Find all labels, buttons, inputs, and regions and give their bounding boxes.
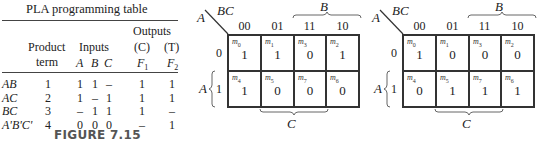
- row-var-label: A: [197, 10, 205, 26]
- kmap-cell: m60: [326, 71, 359, 107]
- minterm-label: m5: [440, 73, 449, 84]
- output-f2: 1: [169, 77, 175, 92]
- minterm-label: m3: [473, 37, 482, 48]
- kmap-cell: m11: [261, 35, 294, 71]
- minterm-label: m2: [330, 37, 339, 48]
- brace-a-label: A: [199, 81, 207, 97]
- cell-value: 0: [437, 47, 468, 63]
- table-title: PLA programming table: [26, 2, 148, 17]
- kmap-cell: m71: [469, 71, 501, 107]
- kmap-grid: m01 m11 m30 m21 m41 m50 m70 m60: [227, 34, 360, 108]
- output-f1-header: F1: [137, 56, 148, 72]
- output-f1: 1: [139, 77, 145, 92]
- kmap-cell: m61: [501, 71, 534, 107]
- kmap-f1: A BC B C A 00 01 11 10 0 1 m01 m11 m30 m…: [195, 0, 365, 148]
- minterm-label: m5: [265, 73, 274, 84]
- col-label: 00: [228, 19, 261, 34]
- output-f1: 1: [139, 104, 145, 119]
- output-f2: –: [169, 104, 175, 119]
- col-label: 01: [436, 19, 469, 34]
- input-a: –: [77, 104, 83, 119]
- output-f2-header: F2: [167, 56, 178, 72]
- minterm-label: m7: [473, 73, 482, 84]
- output-f2: 1: [169, 118, 175, 133]
- cell-value: 0: [404, 83, 435, 99]
- kmap-cell: m70: [294, 71, 326, 107]
- cell-value: 0: [295, 83, 325, 99]
- kmap-f2: A BC B C A 00 01 11 10 0 1 m01 m10 m30 m…: [370, 0, 540, 148]
- input-b: 1: [92, 77, 98, 92]
- term-label: BC: [2, 104, 17, 119]
- minterm-label: m6: [505, 73, 514, 84]
- term-label: AB: [2, 77, 17, 92]
- output-label-c: (C): [134, 40, 150, 55]
- col-label: 00: [403, 19, 436, 34]
- figure-caption: FIGURE 7.15: [54, 128, 141, 142]
- input-c: –: [106, 77, 112, 92]
- brace-a-label: A: [374, 81, 382, 97]
- col-label: 11: [468, 19, 501, 34]
- minterm-label: m4: [407, 73, 416, 84]
- minterm-label: m2: [505, 37, 514, 48]
- kmap-grid: m01 m10 m30 m20 m40 m51 m71 m61: [402, 34, 535, 108]
- minterm-label: m4: [232, 73, 241, 84]
- input-b: 1: [92, 104, 98, 119]
- col-label: 01: [261, 19, 294, 34]
- row-label: 0: [391, 46, 397, 61]
- minterm-label: m6: [330, 73, 339, 84]
- col-label: 10: [326, 19, 359, 34]
- cell-value: 0: [470, 47, 500, 63]
- cell-value: 1: [262, 47, 293, 63]
- term-number: 3: [45, 104, 51, 119]
- input-a-header: A: [76, 56, 83, 71]
- input-a: 1: [77, 77, 83, 92]
- cell-value: 0: [295, 47, 325, 63]
- term-label: A'B'C': [2, 118, 32, 133]
- col-label: 11: [293, 19, 326, 34]
- kmap-cell: m10: [436, 35, 469, 71]
- brace-b-label: B: [320, 0, 328, 15]
- cell-value: 1: [502, 83, 533, 99]
- row-label: 0: [216, 46, 222, 61]
- kmap-cell: m01: [228, 35, 261, 71]
- col-label: 10: [501, 19, 534, 34]
- kmap-cell: m21: [326, 35, 359, 71]
- input-c: 1: [106, 104, 112, 119]
- cell-value: 0: [502, 47, 533, 63]
- kmap-cell: m20: [501, 35, 534, 71]
- brace-c-label: C: [287, 116, 296, 132]
- cell-value: 1: [229, 47, 260, 63]
- cell-value: 1: [404, 47, 435, 63]
- cell-value: 1: [437, 83, 468, 99]
- kmap-cell: m30: [294, 35, 326, 71]
- brace-b-label: B: [495, 0, 503, 15]
- input-b-header: B: [91, 56, 98, 71]
- col-var-label: BC: [392, 3, 409, 19]
- kmap-cell: m51: [436, 71, 469, 107]
- brace-c-label: C: [462, 116, 471, 132]
- term-number: 1: [45, 77, 51, 92]
- outputs-header: Outputs: [133, 24, 171, 39]
- cell-value: 1: [327, 47, 358, 63]
- minterm-label: m1: [440, 37, 449, 48]
- row-label: 1: [216, 82, 222, 97]
- kmap-cell: m40: [403, 71, 436, 107]
- minterm-label: m3: [298, 37, 307, 48]
- cell-value: 1: [229, 83, 260, 99]
- kmap-cell: m01: [403, 35, 436, 71]
- cell-value: 1: [470, 83, 500, 99]
- row-label: 1: [391, 82, 397, 97]
- minterm-label: m0: [407, 37, 416, 48]
- header-rule: [2, 72, 178, 73]
- output-label-t: (T): [164, 40, 179, 55]
- row-var-label: A: [372, 10, 380, 26]
- term-number: 4: [45, 118, 51, 133]
- minterm-label: m1: [265, 37, 274, 48]
- minterm-label: m7: [298, 73, 307, 84]
- input-c-header: C: [104, 56, 112, 71]
- product-header: Product: [28, 40, 65, 55]
- cell-value: 0: [262, 83, 293, 99]
- inputs-header: Inputs: [79, 40, 109, 55]
- top-rule: [2, 20, 178, 21]
- col-var-label: BC: [217, 3, 234, 19]
